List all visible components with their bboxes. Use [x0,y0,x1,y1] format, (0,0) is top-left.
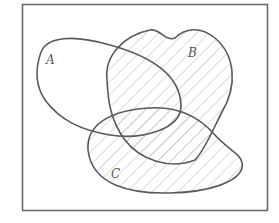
set-a-label: A [45,53,55,67]
venn-diagram: A B C [0,0,279,223]
set-c-label: C [111,167,120,181]
set-b-label: B [187,46,197,60]
